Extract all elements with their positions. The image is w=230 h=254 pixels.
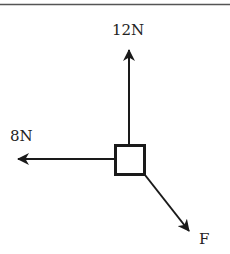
object-box: [116, 146, 145, 175]
label-12n: 12N: [112, 21, 144, 39]
label-f: F: [199, 230, 209, 248]
force-arrow-diagonal: [145, 175, 189, 231]
label-8n: 8N: [10, 127, 33, 145]
free-body-diagram: 12N 8N F: [0, 0, 230, 254]
arrow-down-right-icon: [145, 175, 189, 231]
